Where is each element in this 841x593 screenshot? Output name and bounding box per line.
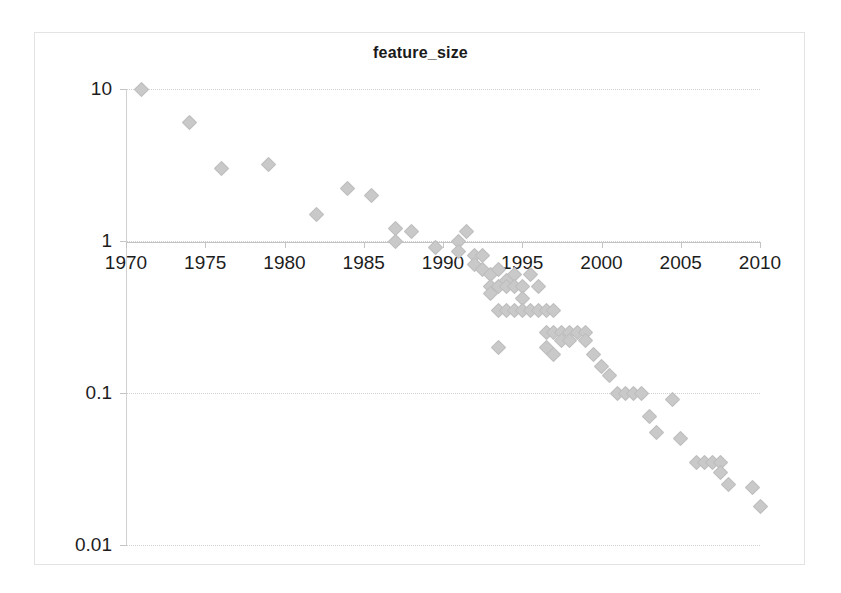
scatter-point <box>364 187 380 203</box>
scatter-point <box>308 206 324 222</box>
scatter-point <box>744 479 760 495</box>
scatter-point <box>491 339 507 355</box>
chart-title: feature_size <box>0 44 841 62</box>
scatter-point <box>340 181 356 197</box>
scatter-point <box>388 233 404 249</box>
scatter-point <box>649 425 665 441</box>
chart-container: feature_size 1010.10.01 1970197519801985… <box>0 0 841 593</box>
y-axis-label: 1 <box>101 230 120 252</box>
y-axis-label: 10 <box>91 78 120 100</box>
y-axis-label: 0.1 <box>86 382 120 404</box>
x-axis-tick <box>760 242 761 248</box>
plot-area <box>126 89 760 545</box>
scatter-point <box>261 156 277 172</box>
scatter-point <box>213 161 229 177</box>
gridline-y <box>126 545 760 546</box>
scatter-point <box>721 477 737 493</box>
scatter-point <box>641 409 657 425</box>
scatter-point <box>530 279 546 295</box>
scatter-point <box>404 224 420 240</box>
scatter-point <box>451 244 467 260</box>
scatter-point <box>182 115 198 131</box>
scatter-point <box>673 431 689 447</box>
y-axis-labels-group: 1010.10.01 <box>0 0 120 593</box>
scatter-point <box>427 240 443 256</box>
scatter-point <box>665 392 681 408</box>
y-axis-label: 0.01 <box>75 534 120 556</box>
y-axis-tick <box>120 545 126 546</box>
